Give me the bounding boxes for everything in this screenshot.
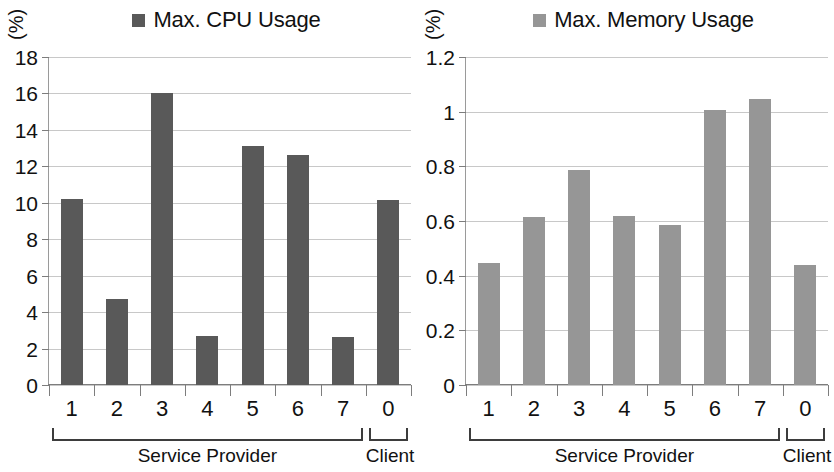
- group-label: Client: [783, 443, 828, 469]
- x-axis-label: 7: [738, 396, 783, 422]
- x-axis-label: 6: [692, 396, 737, 422]
- legend-cpu: Max. CPU Usage: [0, 8, 417, 32]
- x-axis-tick-mark: [466, 385, 467, 396]
- bar-4: [196, 336, 218, 385]
- plot-area-memory: 00.20.40.60.811.2: [466, 57, 828, 385]
- bar-slot: [230, 57, 275, 385]
- x-axis-tick-mark: [602, 385, 603, 396]
- x-axis-tick-mark: [411, 385, 412, 396]
- x-axis-tick-mark: [140, 385, 141, 396]
- bar-3: [151, 93, 173, 385]
- bar-slot: [185, 57, 230, 385]
- y-axis-tick-mark: [459, 112, 466, 113]
- y-axis-unit-label-cpu: (%): [6, 9, 26, 40]
- legend-label-cpu: Max. CPU Usage: [153, 8, 320, 32]
- x-axis-tick-mark: [511, 385, 512, 396]
- x-axis-labels-cpu: 12345670: [49, 396, 411, 422]
- x-axis-label: 2: [94, 396, 139, 422]
- bar-slot: [647, 57, 692, 385]
- x-group-labels-cpu: Service ProviderClient: [49, 443, 411, 471]
- x-axis-tick-mark: [828, 385, 829, 396]
- bar-1: [61, 199, 83, 385]
- x-axis-label: 6: [275, 396, 320, 422]
- y-axis-tick-mark: [459, 385, 466, 386]
- y-axis-tick-mark: [42, 239, 49, 240]
- x-axis-label: 0: [366, 396, 411, 422]
- x-axis-label: 3: [140, 396, 185, 422]
- x-group-brackets-cpu: [49, 428, 411, 442]
- bar-6: [287, 155, 309, 386]
- x-axis-tick-mark: [49, 385, 50, 396]
- y-axis-tick-mark: [42, 57, 49, 58]
- x-axis-ticks-cpu: [49, 385, 411, 396]
- x-group-brackets-memory: [466, 428, 828, 442]
- x-axis-label: 1: [49, 396, 94, 422]
- group-label: Client: [366, 443, 411, 469]
- x-axis-tick-mark: [647, 385, 648, 396]
- bar-slot: [94, 57, 139, 385]
- y-axis-unit-label-memory: (%): [423, 9, 443, 40]
- bar-1: [478, 263, 500, 385]
- x-axis-label: 7: [321, 396, 366, 422]
- bar-slot: [783, 57, 828, 385]
- y-axis-tick-mark: [459, 57, 466, 58]
- x-axis-tick-mark: [185, 385, 186, 396]
- x-axis-tick-mark: [366, 385, 367, 396]
- x-axis-label: 2: [511, 396, 556, 422]
- x-axis-tick-mark: [230, 385, 231, 396]
- bar-slot: [602, 57, 647, 385]
- bar-series-memory: [466, 57, 828, 385]
- x-axis-tick-mark: [275, 385, 276, 396]
- y-axis-tick-mark: [42, 93, 49, 94]
- bar-7: [332, 337, 354, 385]
- group-label: Service Provider: [466, 443, 783, 469]
- y-axis-tick-mark: [459, 221, 466, 222]
- y-axis-tick-mark: [42, 166, 49, 167]
- bar-0: [377, 200, 399, 385]
- y-axis-tick-mark: [42, 130, 49, 131]
- bar-slot: [140, 57, 185, 385]
- y-axis-tick-mark: [42, 349, 49, 350]
- y-axis-tick-mark: [42, 385, 49, 386]
- x-axis-label: 0: [783, 396, 828, 422]
- bar-series-cpu: [49, 57, 411, 385]
- figure-two-bar-charts: Max. CPU Usage (%) 024681012141618 12345…: [0, 0, 834, 472]
- bar-slot: [738, 57, 783, 385]
- x-axis-tick-mark: [783, 385, 784, 396]
- x-axis-tick-mark: [738, 385, 739, 396]
- bar-slot: [466, 57, 511, 385]
- bar-slot: [511, 57, 556, 385]
- bar-3: [568, 170, 590, 385]
- bar-slot: [366, 57, 411, 385]
- group-bracket: [469, 428, 780, 441]
- group-bracket: [52, 428, 363, 441]
- bar-0: [794, 265, 816, 385]
- legend-memory: Max. Memory Usage: [417, 8, 834, 32]
- y-axis-tick-mark: [42, 276, 49, 277]
- x-axis-label: 1: [466, 396, 511, 422]
- x-group-labels-memory: Service ProviderClient: [466, 443, 828, 471]
- x-axis-labels-memory: 12345670: [466, 396, 828, 422]
- y-axis-tick-mark: [459, 330, 466, 331]
- bar-slot: [321, 57, 366, 385]
- x-axis-label: 3: [557, 396, 602, 422]
- x-axis-label: 5: [230, 396, 275, 422]
- bar-slot: [275, 57, 320, 385]
- group-bracket: [786, 428, 825, 441]
- bar-5: [242, 146, 264, 385]
- bar-slot: [557, 57, 602, 385]
- legend-swatch-icon: [533, 14, 546, 27]
- x-axis-tick-mark: [321, 385, 322, 396]
- y-axis-tick-mark: [42, 312, 49, 313]
- x-axis-tick-mark: [94, 385, 95, 396]
- y-axis-tick-mark: [42, 203, 49, 204]
- x-axis-tick-mark: [557, 385, 558, 396]
- bar-2: [523, 217, 545, 385]
- y-axis-tick-mark: [459, 166, 466, 167]
- bar-slot: [49, 57, 94, 385]
- bar-5: [659, 225, 681, 385]
- legend-label-memory: Max. Memory Usage: [554, 8, 754, 32]
- x-axis-label: 4: [602, 396, 647, 422]
- x-axis-ticks-memory: [466, 385, 828, 396]
- bar-2: [106, 299, 128, 385]
